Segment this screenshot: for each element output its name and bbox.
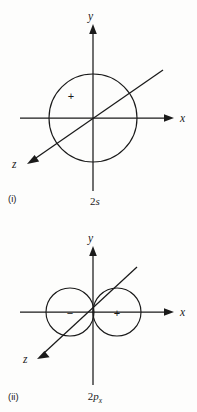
y-axis-label-2px: y — [87, 232, 94, 245]
lobe-sign-negative-2px: − — [67, 307, 73, 319]
orbital-caption-2px: 2px — [88, 390, 103, 405]
orbital-caption-subscript-2px: x — [98, 396, 103, 405]
x-axis-label-2px: x — [179, 306, 186, 318]
orbital-diagram-canvas: + y x z (i) 2s — [0, 0, 197, 412]
panel-index-label-2px: (ii) — [8, 391, 19, 402]
z-axis-arrowhead-2px — [37, 351, 50, 359]
panel-2px: − + y x z (ii) 2px — [8, 232, 186, 405]
y-axis-label-2s: y — [87, 10, 94, 23]
z-axis-line-2px — [44, 267, 137, 353]
z-axis-2px — [37, 267, 137, 359]
panel-2s: + y x z (i) 2s — [8, 10, 186, 207]
x-axis-arrowhead-2px — [164, 308, 174, 316]
x-axis-2px — [20, 308, 174, 316]
z-axis-label-2px: z — [22, 353, 28, 365]
orbital-figure: + y x z (i) 2s — [0, 0, 197, 412]
orbital-caption-2s: 2s — [90, 195, 100, 207]
orbital-caption-symbol-2s: s — [96, 195, 100, 207]
lobe-sign-positive-2px: + — [114, 307, 120, 319]
z-axis-label-2s: z — [11, 158, 17, 170]
x-axis-label-2s: x — [179, 112, 186, 124]
lobe-sign-positive-2s: + — [68, 90, 74, 102]
y-axis-arrowhead-2px — [89, 246, 97, 256]
z-axis-line-2s — [33, 70, 163, 160]
y-axis-2s — [89, 24, 97, 191]
z-axis-2s — [27, 70, 163, 164]
y-axis-arrowhead-2s — [89, 24, 97, 34]
x-axis-arrowhead-2s — [164, 114, 174, 122]
panel-index-label-2s: (i) — [8, 193, 16, 204]
